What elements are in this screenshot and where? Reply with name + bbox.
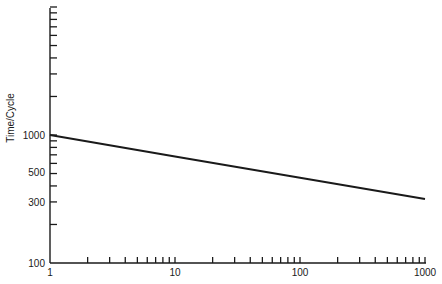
axes xyxy=(50,8,426,263)
x-tick-label-100: 100 xyxy=(292,267,309,278)
x-tick-label-1: 1 xyxy=(47,267,53,278)
x-tick-label-1000: 1000 xyxy=(414,267,437,278)
x-ticks xyxy=(88,257,425,263)
chart-canvas: 1000 500 300 100 1 10 100 1000 Time/Cycl… xyxy=(0,0,442,284)
x-tick-label-10: 10 xyxy=(169,267,181,278)
data-line xyxy=(50,135,425,199)
y-tick-label-100: 100 xyxy=(28,258,45,269)
y-ticks xyxy=(50,7,57,224)
y-tick-label-1000: 1000 xyxy=(23,130,46,141)
y-axis-title: Time/Cycle xyxy=(5,93,16,143)
y-tick-label-500: 500 xyxy=(28,167,45,178)
y-tick-label-300: 300 xyxy=(28,197,45,208)
